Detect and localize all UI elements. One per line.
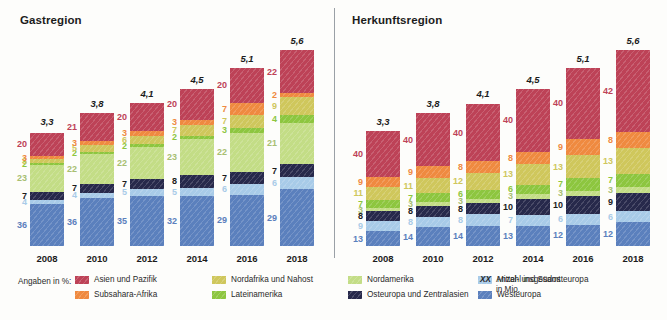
bar-segment[interactable]: 7 [230, 115, 264, 127]
bar-segment[interactable]: 22 [280, 50, 314, 93]
bar-segment[interactable]: 11 [416, 178, 450, 193]
bar-segment[interactable]: 32 [180, 196, 214, 246]
bar-segment[interactable]: 22 [230, 133, 264, 172]
bar-segment[interactable]: 9 [366, 177, 400, 187]
bar-segment[interactable]: 2 [30, 163, 64, 165]
bar-segment[interactable]: 40 [416, 113, 450, 166]
bar-segment[interactable]: 23 [30, 165, 64, 192]
bar-segment[interactable]: 8 [466, 161, 500, 172]
bar-segment[interactable]: 6 [130, 136, 164, 145]
bar-segment[interactable]: 13 [616, 148, 650, 173]
bar-segment[interactable]: 7 [230, 103, 264, 115]
bar-segment[interactable]: 5 [80, 145, 114, 152]
bar-segment[interactable]: 40 [516, 89, 550, 152]
bar-segment[interactable]: 4 [280, 115, 314, 123]
bar-segment[interactable]: 12 [466, 173, 500, 190]
bar-segment[interactable]: 2 [180, 136, 214, 139]
bar-segment[interactable]: 42 [616, 50, 650, 132]
bar-segment[interactable]: 7 [366, 200, 400, 208]
bar-segment[interactable]: 36 [30, 204, 64, 246]
bar-segment[interactable]: 8 [366, 211, 400, 220]
bar-segment[interactable]: 3 [366, 208, 400, 211]
stacked-bar[interactable]: 12693713842 [616, 50, 650, 246]
bar-segment[interactable]: 12 [616, 222, 650, 246]
bar-segment[interactable]: 4 [30, 200, 64, 205]
bar-segment[interactable]: 8 [516, 152, 550, 165]
bar-segment[interactable]: 6 [466, 190, 500, 199]
bar-segment[interactable]: 13 [516, 164, 550, 184]
bar-segment[interactable]: 2 [80, 152, 114, 155]
stacked-bar[interactable]: 36472225321 [80, 113, 114, 246]
bar-segment[interactable]: 3 [516, 194, 550, 199]
bar-segment[interactable]: 3 [416, 202, 450, 206]
stacked-bar[interactable]: 13983711940 [366, 131, 400, 247]
bar-segment[interactable]: 3 [180, 120, 214, 125]
bar-segment[interactable]: 14 [416, 227, 450, 246]
bar-segment[interactable]: 5 [130, 189, 164, 196]
bar-segment[interactable]: 14 [466, 226, 500, 246]
bar-segment[interactable]: 29 [230, 195, 264, 246]
bar-segment[interactable]: 21 [280, 123, 314, 164]
bar-segment[interactable]: 6 [616, 211, 650, 223]
bar-segment[interactable]: 20 [180, 89, 214, 121]
bar-segment[interactable]: 8 [180, 175, 214, 188]
bar-segment[interactable]: 29 [280, 189, 314, 246]
bar-segment[interactable]: 20 [30, 133, 64, 156]
bar-segment[interactable]: 4 [80, 193, 114, 198]
bar-segment[interactable]: 10 [516, 199, 550, 215]
stacked-bar[interactable]: 14883612840 [466, 103, 500, 247]
bar-segment[interactable]: 8 [416, 217, 450, 228]
bar-segment[interactable]: 9 [280, 97, 314, 115]
stacked-bar[interactable]: 137103613840 [516, 89, 550, 247]
bar-segment[interactable]: 7 [616, 174, 650, 188]
bar-segment[interactable]: 6 [280, 177, 314, 189]
bar-segment[interactable]: 6 [516, 185, 550, 194]
bar-segment[interactable]: 2 [130, 144, 164, 147]
bar-segment[interactable]: 13 [566, 155, 600, 178]
bar-segment[interactable]: 3 [30, 159, 64, 162]
stacked-bar[interactable]: 32582327320 [180, 89, 214, 247]
bar-segment[interactable]: 10 [566, 196, 600, 214]
bar-segment[interactable]: 7 [566, 178, 600, 190]
bar-segment[interactable]: 7 [180, 125, 214, 136]
bar-segment[interactable]: 8 [416, 206, 450, 217]
bar-segment[interactable]: 5 [180, 188, 214, 196]
bar-segment[interactable]: 11 [366, 187, 400, 200]
stacked-bar[interactable]: 14883711940 [416, 113, 450, 246]
bar-segment[interactable]: 8 [466, 203, 500, 214]
stacked-bar[interactable]: 29672237720 [230, 68, 264, 247]
bar-segment[interactable]: 3 [566, 191, 600, 196]
bar-segment[interactable]: 7 [516, 215, 550, 226]
bar-segment[interactable]: 12 [566, 225, 600, 246]
bar-segment[interactable]: 3 [230, 128, 264, 133]
bar-segment[interactable]: 7 [130, 179, 164, 189]
bar-segment[interactable]: 35 [130, 196, 164, 246]
bar-segment[interactable]: 7 [416, 193, 450, 202]
bar-segment[interactable]: 20 [230, 68, 264, 103]
bar-segment[interactable]: 9 [416, 166, 450, 178]
bar-segment[interactable]: 3 [80, 141, 114, 145]
bar-segment[interactable]: 9 [616, 193, 650, 211]
stacked-bar[interactable]: 29672149222 [280, 50, 314, 246]
stacked-bar[interactable]: 36472323320 [30, 131, 64, 247]
bar-segment[interactable]: 8 [466, 214, 500, 225]
bar-segment[interactable]: 8 [616, 132, 650, 148]
bar-segment[interactable]: 9 [566, 139, 600, 155]
bar-segment[interactable]: 3 [466, 199, 500, 203]
bar-segment[interactable]: 36 [80, 198, 114, 246]
bar-segment[interactable]: 21 [80, 113, 114, 141]
bar-segment[interactable]: 13 [366, 231, 400, 246]
bar-segment[interactable]: 20 [130, 103, 164, 132]
bar-segment[interactable]: 40 [466, 104, 500, 161]
bar-segment[interactable]: 9 [366, 221, 400, 231]
legend-item[interactable]: Nordamerika [348, 275, 493, 285]
bar-segment[interactable]: 7 [30, 192, 64, 200]
bar-segment[interactable]: 22 [130, 147, 164, 179]
bar-segment[interactable]: 2 [280, 93, 314, 97]
bar-segment[interactable]: 3 [130, 131, 164, 135]
bar-segment[interactable]: 7 [280, 164, 314, 178]
bar-segment[interactable]: 40 [566, 68, 600, 139]
bar-segment[interactable]: 3 [616, 187, 650, 193]
bar-segment[interactable]: 7 [80, 184, 114, 193]
stacked-bar[interactable]: 35572226320 [130, 103, 164, 247]
